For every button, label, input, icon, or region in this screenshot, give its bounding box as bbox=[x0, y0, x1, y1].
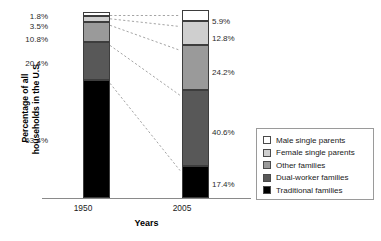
legend-label-female-single-parents: Female single parents bbox=[276, 148, 355, 157]
legend: Male single parents Female single parent… bbox=[256, 128, 374, 200]
legend-label-traditional-families: Traditional families bbox=[276, 186, 342, 195]
segment-1950-female-single-parents[interactable] bbox=[83, 16, 110, 23]
x-tick-2005: 2005 bbox=[152, 203, 212, 213]
label-2005-female-single: 12.8% bbox=[212, 34, 235, 43]
label-2005-male-single: 5.9% bbox=[212, 17, 230, 26]
legend-label-dual-worker-families: Dual-worker families bbox=[276, 173, 348, 182]
segment-2005-traditional-families[interactable] bbox=[182, 166, 209, 198]
y-axis-title-line1: Percentage of all bbox=[20, 28, 31, 188]
legend-item-dual-worker-families[interactable]: Dual-worker families bbox=[263, 172, 373, 185]
legend-item-male-single-parents[interactable]: Male single parents bbox=[263, 134, 373, 147]
segment-1950-dual-worker-families[interactable] bbox=[83, 42, 110, 80]
label-1950-female-single: 3.5% bbox=[2, 22, 48, 31]
label-1950-traditional: 63.4% bbox=[2, 136, 48, 145]
label-1950-other: 10.8% bbox=[2, 35, 48, 44]
segment-2005-female-single-parents[interactable] bbox=[182, 21, 209, 45]
x-axis-line bbox=[42, 198, 251, 199]
legend-swatch-icon-female-single-parents bbox=[263, 149, 271, 157]
label-1950-male-single: 1.8% bbox=[2, 12, 48, 21]
legend-item-female-single-parents[interactable]: Female single parents bbox=[263, 147, 373, 160]
stacked-bar-chart: Percentage of all households in the U.S.… bbox=[0, 0, 381, 241]
legend-label-other-families: Other families bbox=[276, 161, 325, 170]
label-2005-dual-worker: 40.6% bbox=[212, 128, 235, 137]
legend-swatch-icon-other-families bbox=[263, 161, 271, 169]
x-tick-1950: 1950 bbox=[53, 203, 113, 213]
label-2005-other: 24.2% bbox=[212, 68, 235, 77]
legend-item-other-families[interactable]: Other families bbox=[263, 159, 373, 172]
label-1950-dual-worker: 20.4% bbox=[2, 59, 48, 68]
segment-1950-male-single-parents[interactable] bbox=[83, 12, 110, 15]
label-2005-traditional: 17.4% bbox=[212, 180, 235, 189]
y-axis-title-line2: households in the U.S. bbox=[31, 28, 42, 188]
segment-2005-male-single-parents[interactable] bbox=[182, 10, 209, 21]
legend-swatch-icon-traditional-families bbox=[263, 186, 271, 194]
segment-2005-dual-worker-families[interactable] bbox=[182, 90, 209, 166]
segment-2005-other-families[interactable] bbox=[182, 45, 209, 90]
legend-label-male-single-parents: Male single parents bbox=[276, 136, 345, 145]
legend-swatch-icon-dual-worker-families bbox=[263, 174, 271, 182]
legend-swatch-icon-male-single-parents bbox=[263, 136, 271, 144]
x-axis-title: Years bbox=[42, 218, 251, 228]
segment-1950-other-families[interactable] bbox=[83, 22, 110, 42]
legend-item-traditional-families[interactable]: Traditional families bbox=[263, 184, 373, 197]
segment-1950-traditional-families[interactable] bbox=[83, 80, 110, 198]
